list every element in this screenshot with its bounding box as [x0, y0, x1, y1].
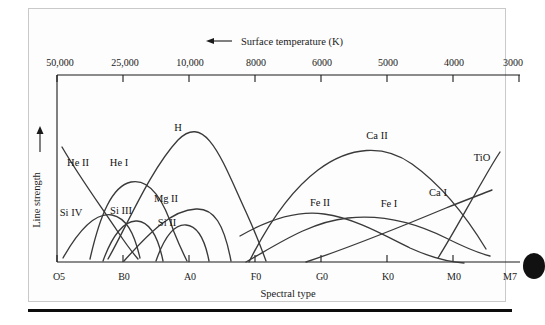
- top-tick-label-0: 50,000: [46, 57, 74, 68]
- x-tick-label-3: F0: [251, 271, 262, 282]
- up-arrow-icon: [37, 126, 44, 134]
- curve-label-tio: TiO: [474, 152, 491, 163]
- curve-h: [108, 132, 266, 261]
- curve-si-ii: [156, 225, 209, 261]
- curve-label-h: H: [174, 122, 182, 133]
- curve-fe-ii: [240, 213, 464, 263]
- curve-label-fe-ii: Fe II: [310, 197, 331, 208]
- curve-si-iii: [103, 221, 163, 261]
- top-tick-label-7: 3000: [503, 57, 523, 68]
- top-tick-label-6: 4000: [444, 57, 464, 68]
- x-tick-label-1: B0: [118, 271, 130, 282]
- curve-ca-i: [306, 190, 492, 262]
- x-tick-label-4: G0: [316, 271, 328, 282]
- top-axis-title-group: Surface temperature (K): [206, 36, 344, 48]
- x-tick-label-5: K0: [382, 271, 394, 282]
- curve-label-si-iv: Si IV: [60, 207, 83, 218]
- curve-tio: [438, 152, 500, 258]
- curve-label-he-i: He I: [110, 157, 129, 168]
- left-arrow-icon: [206, 38, 214, 44]
- top-tick-label-5: 5000: [378, 57, 398, 68]
- x-tick-label-2: A0: [184, 271, 196, 282]
- top-tick-label-4: 6000: [312, 57, 332, 68]
- curve-label-mg-ii: Mg II: [154, 193, 179, 204]
- curve-label-fe-i: Fe I: [381, 198, 398, 209]
- top-axis-title: Surface temperature (K): [241, 36, 344, 48]
- x-tick-label-6: M0: [447, 271, 461, 282]
- x-tick-label-0: O5: [53, 271, 65, 282]
- top-tick-label-2: 10,000: [176, 57, 204, 68]
- y-axis-title-group: Line strength: [31, 126, 44, 228]
- curve-label-si-iii: Si III: [110, 205, 132, 216]
- curve-label-he-ii: He II: [67, 157, 89, 168]
- curve-label-si-ii: Si II: [158, 217, 177, 228]
- x-tick-label-7: M7: [503, 271, 517, 282]
- curve-label-ca-ii: Ca II: [366, 130, 388, 141]
- curve-mg-ii: [124, 209, 231, 261]
- top-tick-label-3: 8000: [246, 57, 266, 68]
- x-axis-title: Spectral type: [260, 288, 315, 299]
- curve-label-ca-i: Ca I: [429, 187, 447, 198]
- top-axis: 50,000 25,000 10,000 8000 6000 5000 4000…: [46, 57, 523, 82]
- top-tick-label-1: 25,000: [111, 57, 139, 68]
- y-axis-title: Line strength: [31, 171, 42, 227]
